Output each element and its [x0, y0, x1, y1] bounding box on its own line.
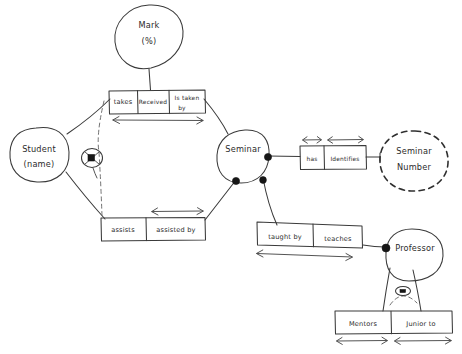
- entity-student-label-line2: (name): [24, 159, 55, 169]
- entity-seminar-number-label-line1: Seminar: [396, 146, 432, 156]
- connector-takes-to-seminar: [204, 99, 228, 134]
- relationship-mentors-junior-to[interactable]: Mentors Junior to: [335, 311, 453, 344]
- professor-connection-dot: [382, 244, 390, 252]
- entity-professor-label: Professor: [395, 243, 435, 253]
- exclusive-arc-professor-fill: [400, 290, 406, 293]
- relationship-takes-received-is-taken-by[interactable]: takes Received Is taken by: [109, 90, 206, 124]
- relationship-has-identifies[interactable]: has Identifies: [300, 136, 367, 169]
- relationship-cell-has-label: has: [306, 156, 317, 162]
- relationship-assists-assisted-by[interactable]: assists assisted by: [101, 208, 206, 241]
- entity-seminar-label: Seminar: [225, 144, 261, 154]
- er-diagram-canvas: Mark (%) Student (name) Seminar Seminar …: [0, 0, 462, 354]
- connector-student-to-assists: [66, 172, 105, 219]
- relationship-taught-by-divider: [313, 224, 314, 247]
- exclusive-arc-student-dashed-line: [98, 101, 104, 216]
- relationship-cell-taught-by-label: taught by: [268, 233, 302, 241]
- relationship-has-divider: [324, 146, 325, 170]
- exclusive-arc-professor-dashed-line: [390, 296, 417, 305]
- connector-assists-to-seminar: [205, 180, 236, 220]
- seminar-connection-dot-right: [264, 153, 271, 160]
- relationship-mentors-arrow-line-right: [395, 341, 451, 342]
- entity-professor-oval: [386, 229, 443, 281]
- relationship-cell-assists-label: assists: [111, 226, 135, 234]
- relationship-taught-by-teaches[interactable]: taught by teaches: [256, 222, 362, 261]
- relationship-cell-assisted-by-label: assisted by: [156, 226, 195, 234]
- entity-seminar[interactable]: Seminar: [217, 130, 272, 185]
- relationship-cell-is-taken-by-label: Is taken: [175, 95, 200, 101]
- relationship-takes-divider-2: [169, 90, 170, 113]
- entity-mark-label-line2: (%): [142, 36, 157, 46]
- entity-professor[interactable]: Professor: [382, 229, 443, 281]
- relationship-mentors-divider: [391, 311, 392, 334]
- relationship-has-arrow-line-right: [328, 140, 363, 141]
- relationship-mentors-arrow-line-left: [337, 341, 387, 342]
- relationship-cell-identifies-label: Identifies: [330, 156, 359, 162]
- entity-student[interactable]: Student (name): [10, 127, 69, 182]
- connector-professor-to-junior-to: [413, 270, 421, 311]
- relationship-cell-takes-label: takes: [114, 98, 133, 106]
- entity-seminar-number-oval: [380, 131, 448, 191]
- relationship-cell-junior-to-label: Junior to: [405, 320, 435, 328]
- entity-student-oval: [10, 127, 69, 182]
- relationship-taught-by-arrow-line: [257, 254, 352, 258]
- relationship-cell-mentors-label: Mentors: [349, 320, 377, 328]
- relationship-assists-divider: [146, 218, 147, 241]
- er-diagram-svg: Mark (%) Student (name) Seminar Seminar …: [0, 0, 462, 354]
- connector-seminar-to-taught-by: [263, 178, 277, 225]
- relationship-cell-received-label: Received: [139, 99, 167, 105]
- connector-teaches-to-professor: [363, 245, 385, 247]
- seminar-connection-dot-bottom-left: [232, 177, 239, 184]
- connector-mark-to-takes: [149, 69, 151, 90]
- seminar-connection-dot-bottom-right: [260, 177, 267, 184]
- entity-seminar-number-label-line2: Number: [397, 162, 432, 172]
- exclusive-arc-professor-group: [390, 287, 417, 306]
- relationship-cell-is-taken-by-label-cont: by: [178, 105, 186, 112]
- entity-mark-label-line1: Mark: [139, 20, 160, 30]
- relationship-takes-arrow-line: [113, 120, 203, 121]
- entity-seminar-number[interactable]: Seminar Number: [380, 131, 448, 191]
- relationship-cell-teaches-label: teaches: [324, 235, 352, 243]
- entity-mark[interactable]: Mark (%): [115, 5, 183, 69]
- exclusive-arc-student-group: [82, 101, 105, 216]
- exclusive-arc-student-fill: [88, 155, 95, 162]
- entity-student-label-line1: Student: [22, 144, 56, 154]
- exclusive-arc-student-tail: [93, 168, 97, 178]
- connector-professor-to-mentors: [383, 268, 390, 311]
- connector-seminar-to-has: [268, 156, 300, 157]
- entity-seminar-oval: [217, 130, 269, 183]
- relationship-assists-arrow-line: [152, 211, 203, 212]
